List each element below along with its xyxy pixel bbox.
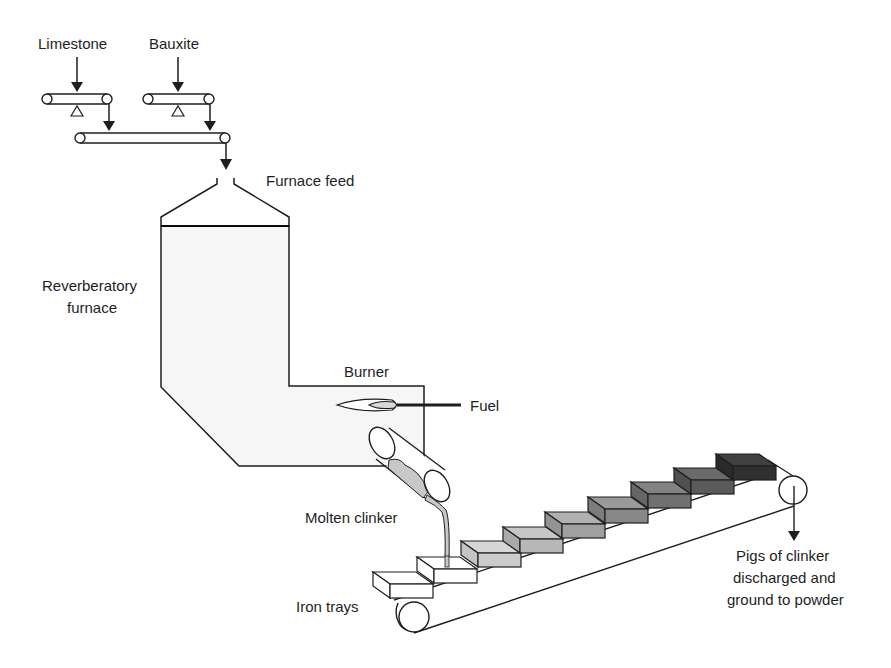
bauxite-conveyor [143, 94, 214, 116]
discharge-arrowhead-icon [788, 531, 800, 541]
tilting-ladle [364, 423, 455, 560]
tail-roller [399, 602, 429, 632]
reverberatory-label-line2: furnace [67, 299, 117, 316]
molten-clinker-label: Molten clinker [305, 509, 398, 526]
head-roller [779, 476, 807, 504]
bauxite-feed: Bauxite [143, 35, 216, 131]
reverberatory-furnace [161, 178, 424, 466]
limestone-feed: Limestone [38, 35, 115, 131]
fuel-label: Fuel [470, 397, 499, 414]
scale-triangle-icon [172, 106, 184, 116]
limestone-label: Limestone [38, 35, 107, 52]
burner-label: Burner [344, 363, 389, 380]
scale-triangle-icon [71, 106, 83, 116]
drop-arrowhead-icon [204, 121, 216, 131]
limestone-conveyor [42, 94, 112, 116]
furnace-feed-label: Furnace feed [266, 172, 354, 189]
collecting-conveyor [75, 133, 232, 170]
reverberatory-label-line1: Reverberatory [42, 277, 138, 294]
pigs-label-line3: ground to powder [727, 591, 844, 608]
bauxite-arrowhead-icon [172, 82, 184, 92]
clinker-process-diagram: Limestone Bauxite [0, 0, 891, 668]
bauxite-label: Bauxite [149, 35, 199, 52]
feed-arrowhead-icon [220, 159, 232, 170]
limestone-arrowhead-icon [71, 82, 83, 92]
iron-trays-label: Iron trays [296, 598, 359, 615]
pigs-label-line1: Pigs of clinker [736, 547, 829, 564]
pigs-label-line2: discharged and [733, 569, 836, 586]
drop-arrowhead-icon [103, 121, 115, 131]
